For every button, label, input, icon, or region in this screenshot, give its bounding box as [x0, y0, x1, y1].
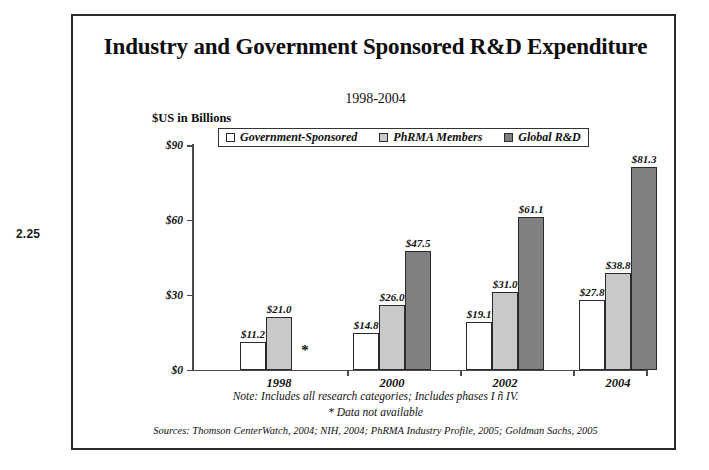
- page-root: 2.25 Industry and Government Sponsored R…: [0, 0, 709, 470]
- legend-entry[interactable]: Global R&D: [504, 130, 580, 145]
- chart-bar[interactable]: [605, 273, 631, 370]
- x-axis-tick: [460, 370, 462, 376]
- x-axis-line: [192, 370, 648, 372]
- chart-bar[interactable]: [466, 322, 492, 370]
- x-axis-tick: [347, 370, 349, 376]
- legend-entry[interactable]: PhRMA Members: [379, 130, 482, 145]
- legend-label: Global R&D: [518, 130, 580, 145]
- legend-swatch-icon: [379, 133, 388, 142]
- chart-sources: Sources: Thomson CenterWatch, 2004; NIH,…: [73, 425, 678, 436]
- chart-subtitle: 1998-2004: [73, 91, 678, 107]
- x-axis-category-label: 1998: [240, 376, 318, 391]
- y-axis-tick-label: $0: [172, 364, 184, 376]
- plot-area: $0$30$60$90$11.2$21.0*1998$14.8$26.0$47.…: [192, 144, 648, 371]
- bar-value-label: $61.1: [508, 203, 554, 215]
- bar-value-label: $21.0: [256, 303, 302, 315]
- chart-note-missing-data: * Data not available: [73, 406, 678, 418]
- y-axis-tick: [187, 370, 193, 372]
- legend-label: PhRMA Members: [393, 130, 482, 145]
- chart-bar[interactable]: [518, 217, 544, 369]
- y-axis-tick-label: $60: [166, 214, 183, 226]
- x-axis-tick: [646, 370, 648, 376]
- chart-bar[interactable]: [492, 292, 518, 369]
- x-axis-category-label: 2002: [466, 376, 544, 391]
- legend-swatch-icon: [226, 133, 235, 142]
- x-axis-category-label: 2000: [353, 376, 431, 391]
- legend-entry[interactable]: Government-Sponsored: [226, 130, 357, 145]
- bar-value-label: $81.3: [621, 153, 667, 165]
- bar-value-label: $47.5: [395, 237, 441, 249]
- x-axis-tick: [573, 370, 575, 376]
- missing-data-marker: *: [292, 342, 318, 359]
- figure-frame: Industry and Government Sponsored R&D Ex…: [71, 14, 676, 450]
- chart-bar[interactable]: [240, 342, 266, 370]
- y-axis-tick-label: $90: [166, 139, 183, 151]
- y-axis-tick: [187, 220, 193, 222]
- x-axis-category-label: 2004: [579, 376, 657, 391]
- chart-bar[interactable]: [379, 305, 405, 370]
- y-axis-unit-label: $US in Billions: [152, 111, 231, 126]
- chart-bar[interactable]: [353, 333, 379, 370]
- y-axis-tick-label: $30: [166, 289, 183, 301]
- y-axis-tick: [187, 145, 193, 147]
- y-axis-tick: [187, 295, 193, 297]
- page-margin-label: 2.25: [16, 227, 40, 241]
- y-axis-line: [192, 144, 194, 371]
- legend-swatch-icon: [504, 133, 513, 142]
- chart-bar[interactable]: [631, 167, 657, 370]
- legend-label: Government-Sponsored: [240, 130, 357, 145]
- chart-title: Industry and Government Sponsored R&D Ex…: [73, 34, 678, 60]
- chart-note-methodology: Note: Includes all research categories; …: [73, 390, 678, 402]
- chart-bar[interactable]: [405, 251, 431, 369]
- chart-bar[interactable]: [266, 317, 292, 369]
- chart-bar[interactable]: [579, 300, 605, 369]
